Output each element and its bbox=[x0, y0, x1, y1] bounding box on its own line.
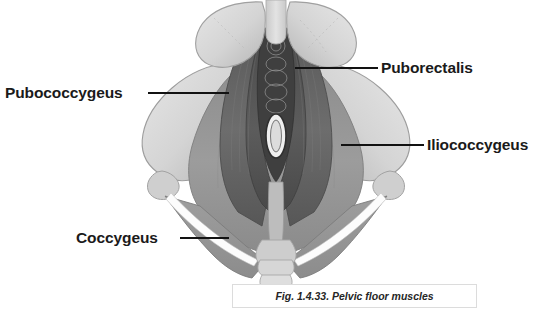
figure-caption-text: Fig. 1.4.33. Pelvic floor muscles bbox=[275, 290, 433, 302]
label-iliococcygeus: Iliococcygeus bbox=[427, 137, 528, 153]
anal-canal-inner bbox=[271, 120, 282, 152]
midline-raphe bbox=[268, 182, 283, 244]
pelvic-floor-illustration bbox=[0, 0, 552, 310]
figure-page: Pubococcygeus Puborectalis Iliococcygeus… bbox=[0, 0, 552, 310]
figure-caption-box: Fig. 1.4.33. Pelvic floor muscles bbox=[232, 284, 477, 308]
label-coccygeus: Coccygeus bbox=[76, 230, 158, 246]
pubic-symphysis bbox=[266, 0, 286, 44]
label-puborectalis: Puborectalis bbox=[381, 60, 473, 76]
label-pubococcygeus: Pubococcygeus bbox=[5, 85, 123, 101]
sacrum bbox=[256, 240, 296, 262]
